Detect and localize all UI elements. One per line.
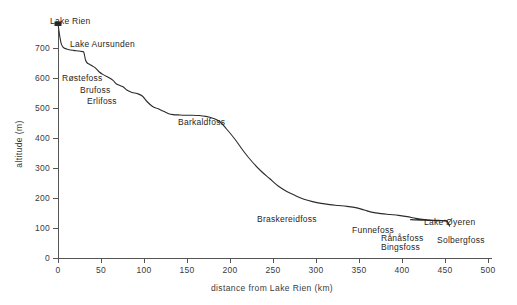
label-solbergfoss: Solbergfoss [437, 235, 485, 245]
x-tick-label-150: 150 [179, 265, 194, 275]
profile-series [55, 22, 450, 226]
y-tick-label-100: 100 [35, 223, 50, 233]
x-tick-label-450: 450 [437, 265, 452, 275]
x-tick-label-50: 50 [96, 265, 106, 275]
y-tick-label-300: 300 [35, 163, 50, 173]
annotation-labels: Lake Rien Lake Aursunden Røstefoss Brufo… [50, 16, 485, 252]
chart-container: 700 600 500 400 300 200 100 0 altitude (… [0, 0, 517, 305]
x-axis: 0 50 100 150 200 250 300 350 400 450 500… [55, 258, 495, 293]
x-tick-label-300: 300 [308, 265, 323, 275]
label-lake-oyeren: Lake Øyeren [424, 217, 475, 227]
label-lake-rien: Lake Rien [50, 16, 91, 26]
y-tick-label-600: 600 [35, 73, 50, 83]
y-axis-title: altitude (m) [14, 120, 24, 167]
x-axis-title: distance from Lake Rien (km) [211, 283, 333, 293]
y-tick-label-400: 400 [35, 133, 50, 143]
x-tick-label-250: 250 [265, 265, 280, 275]
x-tick-label-400: 400 [394, 265, 409, 275]
y-tick-label-700: 700 [35, 43, 50, 53]
x-tick-label-200: 200 [222, 265, 237, 275]
label-bingsfoss: Bingsfoss [381, 242, 420, 252]
y-tick-label-200: 200 [35, 193, 50, 203]
profile-line [58, 24, 450, 226]
y-axis: 700 600 500 400 300 200 100 0 altitude (… [14, 30, 58, 263]
label-rostefoss: Røstefoss [62, 73, 103, 83]
label-lake-aursunden: Lake Aursunden [70, 39, 135, 49]
x-tick-label-0: 0 [55, 265, 60, 275]
y-tick-label-0: 0 [45, 253, 50, 263]
label-erlifoss: Erlifoss [87, 96, 117, 106]
label-brufoss: Brufoss [80, 85, 111, 95]
river-profile-chart: 700 600 500 400 300 200 100 0 altitude (… [0, 0, 517, 305]
y-tick-label-500: 500 [35, 103, 50, 113]
x-tick-label-350: 350 [351, 265, 366, 275]
label-braskereidfoss: Braskereidfoss [257, 214, 317, 224]
x-tick-label-100: 100 [136, 265, 151, 275]
label-barkaldfoss: Barkaldfoss [178, 117, 225, 127]
x-tick-label-500: 500 [480, 265, 495, 275]
